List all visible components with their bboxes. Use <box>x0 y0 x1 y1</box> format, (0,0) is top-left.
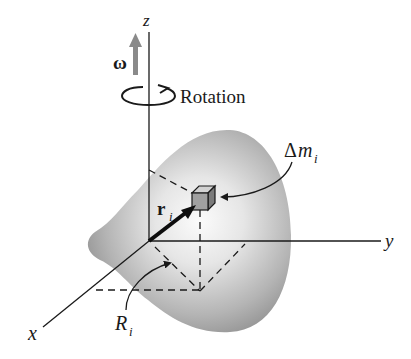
mass-element-m: m <box>298 139 312 161</box>
rotation-label: Rotation <box>180 86 246 107</box>
rigid-body-diagram: ω Rotation z y x r i Δ m i R i <box>0 0 411 359</box>
x-axis-label: x <box>27 322 37 344</box>
z-axis-label: z <box>142 11 150 30</box>
perp-distance-subscript: i <box>129 324 133 339</box>
mass-element-cube <box>192 186 215 210</box>
omega-label: ω <box>113 52 127 73</box>
rigid-body-shape <box>88 130 291 332</box>
y-axis-label: y <box>383 230 394 251</box>
mass-element-delta: Δ <box>284 139 297 161</box>
position-vector-subscript: i <box>169 209 173 224</box>
perp-distance-label: R <box>114 312 127 334</box>
position-vector-label: r <box>157 198 166 219</box>
omega-arrow-icon <box>129 33 142 75</box>
mass-element-subscript: i <box>314 151 318 166</box>
